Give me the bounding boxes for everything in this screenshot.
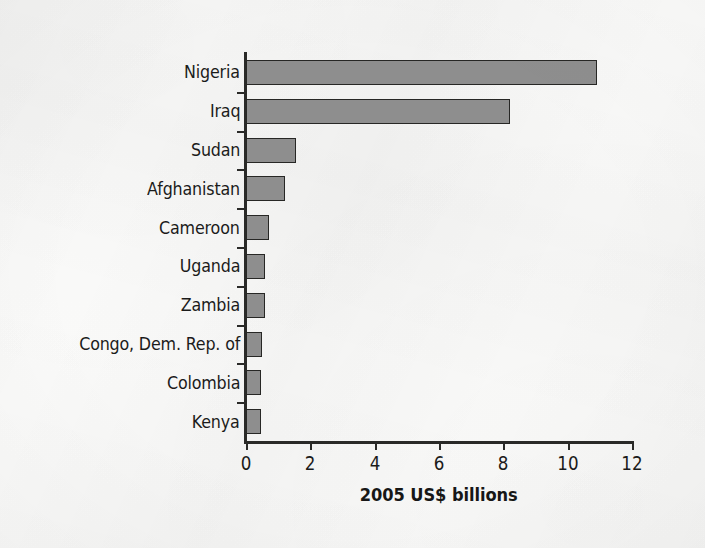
bar (246, 409, 261, 434)
x-axis-tick (503, 441, 505, 450)
x-axis-tick (632, 441, 634, 450)
bar (246, 138, 296, 163)
x-axis-tick-labels: 024681012 (246, 452, 632, 478)
bar (246, 176, 285, 201)
bar (246, 332, 262, 357)
y-axis-category-label: Congo, Dem. Rep. of (79, 334, 240, 354)
y-axis-tick (237, 402, 245, 404)
x-axis-tick-label: 2 (305, 452, 316, 474)
x-axis-tick (439, 441, 441, 450)
y-axis-category-label: Nigeria (184, 62, 240, 82)
y-axis-category-label: Uganda (180, 256, 240, 276)
y-axis-tick (237, 208, 245, 210)
bar (246, 293, 265, 318)
bar (246, 215, 269, 240)
bar (246, 99, 510, 124)
x-axis-tick-label: 8 (498, 452, 509, 474)
y-axis-category-label: Colombia (167, 373, 240, 393)
x-axis-tick (310, 441, 312, 450)
plot-area (246, 53, 632, 441)
y-axis-tick (237, 325, 245, 327)
x-axis-tick (568, 441, 570, 450)
y-axis-tick (237, 247, 245, 249)
x-axis-tick-label: 10 (557, 452, 578, 474)
bar (246, 370, 261, 395)
y-axis-category-label: Afghanistan (147, 179, 240, 199)
y-axis-category-label: Cameroon (159, 218, 240, 238)
y-axis-tick (237, 169, 245, 171)
y-axis-tick (237, 131, 245, 133)
bar (246, 254, 265, 279)
y-axis-tick (237, 363, 245, 365)
y-axis-category-label: Iraq (210, 101, 240, 121)
x-axis-tick-label: 4 (369, 452, 380, 474)
y-axis-category-label: Zambia (181, 295, 240, 315)
y-axis-category-labels: NigeriaIraqSudanAfghanistanCameroonUgand… (0, 53, 240, 441)
x-axis-tick (375, 441, 377, 450)
y-axis-tick (237, 286, 245, 288)
bar-chart-figure: NigeriaIraqSudanAfghanistanCameroonUgand… (0, 0, 705, 548)
x-axis-tick-label: 0 (241, 452, 252, 474)
x-axis-tick-label: 6 (434, 452, 445, 474)
bar (246, 60, 597, 85)
x-axis-tick (246, 441, 248, 450)
x-axis-tick-label: 12 (621, 452, 642, 474)
x-axis-title: 2005 US$ billions (246, 484, 632, 505)
y-axis-category-label: Kenya (192, 412, 240, 432)
y-axis-category-label: Sudan (191, 140, 240, 160)
y-axis-tick (237, 92, 245, 94)
x-axis-title-text: 2005 US$ billions (360, 484, 518, 505)
